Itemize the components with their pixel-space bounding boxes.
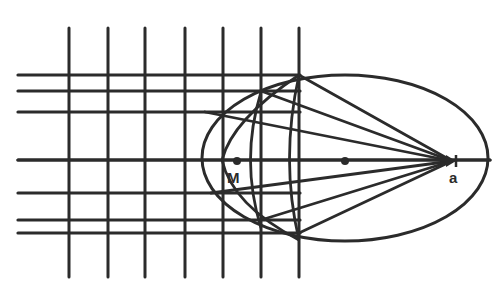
ray-line (205, 112, 452, 161)
focus-arrowhead (446, 155, 456, 167)
ray-line (299, 75, 452, 161)
point-center (341, 157, 349, 165)
label-m: M (227, 170, 240, 185)
ellipse-construction-diagram (0, 0, 504, 288)
vertical-grid-lines (69, 28, 299, 277)
point-m (233, 157, 241, 165)
label-a: a (449, 170, 457, 185)
